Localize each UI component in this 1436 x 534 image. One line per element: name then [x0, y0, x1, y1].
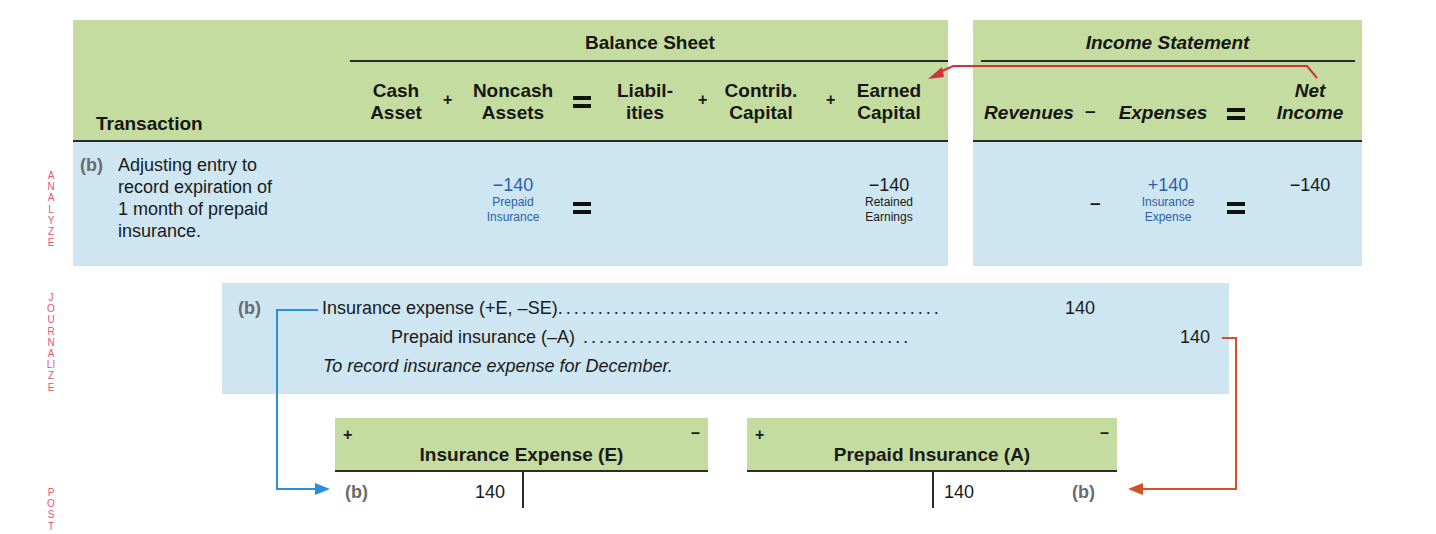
red-arrow-net-income-to-earned-capital [928, 66, 1317, 79]
orange-arrow-journal-to-prepaid-insurance [1128, 338, 1236, 495]
flow-arrows [0, 0, 1436, 534]
blue-arrow-journal-to-insurance-expense [277, 310, 330, 495]
